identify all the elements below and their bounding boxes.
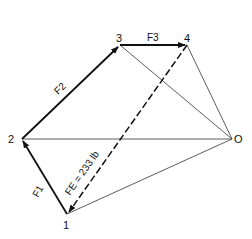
vector-label-f2: F2: [52, 80, 68, 96]
ray-o-4: [187, 45, 232, 139]
point-label-3: 3: [116, 32, 122, 44]
vector-label-f1: F1: [30, 183, 46, 199]
force-polygon-diagram: 1 2 3 4 O F3 F2 F1 FE = 233 lb: [0, 0, 252, 239]
vector-f1: [23, 141, 67, 214]
point-label-2: 2: [8, 133, 14, 145]
vector-f2: [22, 47, 118, 139]
vector-label-f3: F3: [147, 32, 159, 43]
ray-o-3: [120, 45, 232, 139]
point-label-4: 4: [184, 32, 190, 44]
point-label-1: 1: [63, 219, 69, 231]
vector-label-fe: FE = 233 lb: [63, 148, 102, 197]
point-label-o: O: [234, 133, 243, 145]
vector-fe: [69, 45, 187, 212]
